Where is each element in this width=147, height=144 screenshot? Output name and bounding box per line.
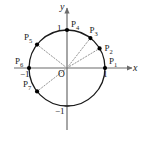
y-axis-label: y bbox=[60, 2, 64, 12]
x-tick-positive-label: 1 bbox=[103, 70, 108, 79]
dotted-radii-group bbox=[37, 38, 100, 91]
x-tick-negative-label: −1 bbox=[20, 70, 30, 79]
point-marker-p4 bbox=[65, 28, 69, 32]
radius-line-p2 bbox=[67, 48, 100, 68]
origin-label: O bbox=[58, 70, 65, 80]
point-marker-p2 bbox=[97, 46, 101, 50]
x-axis-label: x bbox=[133, 63, 137, 73]
point-label-p7: P7 bbox=[23, 80, 31, 91]
point-label-p6: P6 bbox=[15, 57, 23, 68]
point-label-p1: P1 bbox=[109, 57, 117, 68]
point-marker-p5 bbox=[35, 43, 39, 47]
point-marker-p7 bbox=[35, 89, 39, 93]
radius-line-p3 bbox=[67, 38, 90, 68]
y-tick-negative-label: −1 bbox=[55, 107, 65, 116]
unit-circle-figure: x y O 1 −1 1 −1 P1P2P3P4P5P6P7 bbox=[0, 0, 147, 144]
point-label-p4: P4 bbox=[71, 20, 79, 31]
point-label-p5: P5 bbox=[24, 33, 32, 44]
point-label-p3: P3 bbox=[89, 26, 97, 37]
point-label-p2: P2 bbox=[105, 44, 113, 55]
y-tick-positive-label: 1 bbox=[57, 24, 62, 33]
radius-line-p5 bbox=[37, 45, 67, 68]
